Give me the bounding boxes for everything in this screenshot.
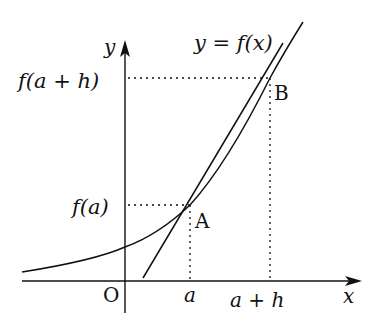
diagram-canvas: y = f(x) y x O A B f(a) f(a + h) a a + h (0, 0, 378, 327)
point-a-label: A (194, 209, 210, 233)
fah-label: f(a + h) (16, 69, 99, 93)
point-b-label: B (274, 81, 289, 105)
curve-f (22, 22, 303, 272)
curve-label: y = f(x) (193, 31, 273, 55)
ah-tick-label: a + h (230, 288, 284, 312)
y-axis-label: y (103, 35, 116, 59)
a-tick-label: a (184, 283, 196, 307)
origin-label: O (103, 283, 119, 307)
x-axis-label: x (343, 284, 354, 308)
fa-label: f(a) (70, 195, 109, 219)
